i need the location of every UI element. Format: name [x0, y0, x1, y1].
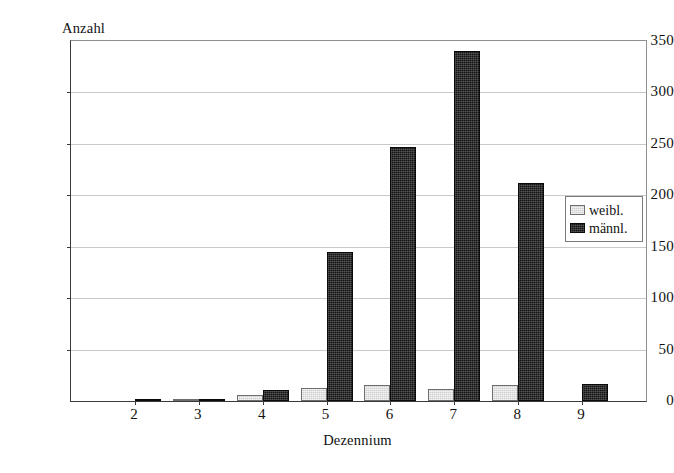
bar-maennl-3	[199, 399, 225, 401]
legend-entry: weibl.	[570, 201, 639, 219]
y-tick-mark	[67, 195, 71, 196]
x-tick-label: 9	[561, 406, 601, 422]
dark-hatch-swatch	[570, 223, 585, 233]
legend-label: männl.	[589, 221, 628, 236]
gridline	[71, 298, 646, 299]
y-tick-label: 50	[616, 341, 674, 356]
x-tick-mark	[263, 401, 264, 405]
legend-label: weibl.	[589, 203, 624, 218]
bar-maennl-2	[135, 399, 161, 401]
y-tick-label: 250	[616, 135, 674, 150]
y-tick-mark	[67, 92, 71, 93]
y-tick-label: 100	[616, 290, 674, 305]
x-tick-label: 7	[433, 406, 473, 422]
y-tick-mark	[67, 144, 71, 145]
y-tick-mark	[67, 247, 71, 248]
bar-maennl-4	[263, 390, 289, 401]
bar-weibl-5	[301, 388, 327, 401]
legend-entry: männl.	[570, 219, 639, 237]
x-tick-mark	[135, 401, 136, 405]
gridline	[71, 195, 646, 196]
gridline	[71, 92, 646, 93]
bar-maennl-9	[582, 384, 608, 401]
x-tick-mark	[390, 401, 391, 405]
bar-weibl-6	[364, 385, 390, 401]
y-axis-title: Anzahl	[62, 20, 105, 36]
bar-maennl-8	[518, 183, 544, 401]
x-tick-label: 5	[306, 406, 346, 422]
x-tick-label: 3	[178, 406, 218, 422]
y-tick-label: 0	[616, 393, 674, 408]
x-tick-mark	[582, 401, 583, 405]
x-tick-mark	[518, 401, 519, 405]
x-tick-mark	[199, 401, 200, 405]
gridline	[71, 144, 646, 145]
x-tick-mark	[454, 401, 455, 405]
bar-chart-figure: Anzahl 050100150200250300350 23456789 De…	[0, 0, 674, 473]
bar-maennl-6	[390, 147, 416, 401]
x-axis-title: Dezennium	[70, 432, 645, 448]
y-tick-mark	[67, 350, 71, 351]
x-tick-label: 4	[242, 406, 282, 422]
bar-weibl-7	[428, 389, 454, 401]
y-tick-mark	[67, 298, 71, 299]
x-tick-label: 6	[369, 406, 409, 422]
bar-maennl-7	[454, 51, 480, 401]
x-tick-label: 2	[114, 406, 154, 422]
x-tick-mark	[327, 401, 328, 405]
light-gray-hatch-swatch	[570, 205, 585, 215]
y-tick-label: 350	[616, 33, 674, 48]
chart-legend: weibl.männl.	[565, 196, 643, 242]
bar-weibl-3	[173, 399, 199, 401]
bar-weibl-8	[492, 385, 518, 401]
gridline	[71, 247, 646, 248]
x-tick-label: 8	[497, 406, 537, 422]
y-tick-label: 300	[616, 84, 674, 99]
gridline	[71, 350, 646, 351]
bar-maennl-5	[327, 252, 353, 401]
bar-weibl-4	[237, 395, 263, 401]
plot-area	[70, 40, 647, 402]
